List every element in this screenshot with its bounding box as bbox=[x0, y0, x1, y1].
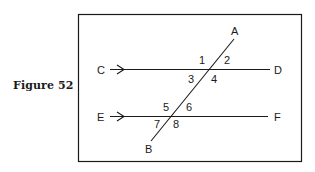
angle-label-3: 3 bbox=[188, 73, 194, 85]
angle-label-2: 2 bbox=[224, 54, 230, 66]
point-label-c: C bbox=[97, 64, 105, 76]
transversal-ab bbox=[151, 39, 234, 141]
angle-label-8: 8 bbox=[173, 118, 179, 130]
angle-label-5: 5 bbox=[163, 101, 169, 113]
point-label-d: D bbox=[274, 64, 282, 76]
figure-frame bbox=[79, 15, 302, 162]
angle-label-7: 7 bbox=[154, 118, 160, 130]
point-label-f: F bbox=[274, 111, 281, 123]
point-label-b: B bbox=[145, 143, 152, 155]
point-label-e: E bbox=[97, 111, 104, 123]
angle-label-6: 6 bbox=[186, 101, 192, 113]
point-label-a: A bbox=[231, 25, 239, 37]
geometry-diagram: A B C D E F 1 2 3 4 5 6 7 8 bbox=[0, 0, 315, 172]
angle-label-4: 4 bbox=[211, 73, 217, 85]
angle-label-1: 1 bbox=[199, 54, 205, 66]
line-ef bbox=[110, 112, 268, 121]
